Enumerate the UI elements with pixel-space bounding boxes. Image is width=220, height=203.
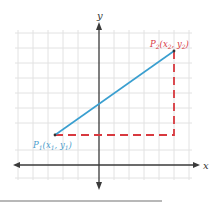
x-axis-left-arrow-icon — [13, 162, 20, 168]
y-axis-down-arrow-icon — [96, 182, 102, 190]
y-axis-up-arrow-icon — [96, 22, 102, 30]
grid — [15, 30, 192, 180]
x-axis — [13, 162, 200, 168]
point-p1 — [54, 134, 57, 137]
x-axis-right-arrow-icon — [193, 162, 200, 168]
y-axis-label: y — [96, 10, 103, 21]
p1-label: P1(x1, y1) — [32, 140, 72, 151]
point-p2 — [173, 50, 176, 53]
x-axis-label: x — [203, 160, 209, 171]
page-rule — [0, 200, 162, 202]
p2-label: P2(x2, y2) — [149, 39, 189, 50]
distance-diagram: x y P2(x2, y2) P1(x1, y1) — [0, 0, 220, 203]
